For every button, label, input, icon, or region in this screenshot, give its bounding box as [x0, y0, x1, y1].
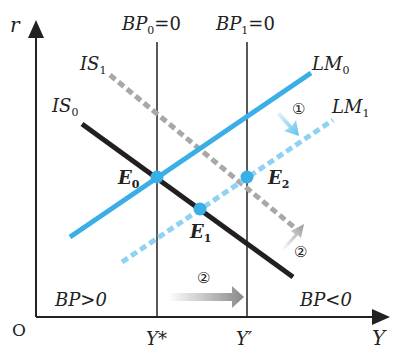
- is1-label: IS1: [79, 53, 106, 77]
- step-1-marker: ①: [292, 100, 305, 118]
- is0-label: IS0: [51, 95, 78, 119]
- origin-label: O: [12, 320, 26, 340]
- x-tick-ystar: Y*: [146, 328, 167, 349]
- x-tick-yprime: Y′: [236, 328, 252, 349]
- y-axis-label: r: [10, 13, 21, 37]
- diagram-canvas: r Y O BP0=0 BP1=0 IS1 IS0 LM1 LM0 E0 E1 …: [0, 0, 402, 356]
- step-2-marker-is: ②: [294, 243, 307, 261]
- bp1-label: BP1=0: [215, 13, 275, 37]
- x-axis-label: Y: [372, 326, 387, 350]
- point-e1: [194, 203, 207, 216]
- is0-curve: [82, 124, 293, 277]
- lm1-label: LM1: [331, 96, 369, 120]
- point-e0: [151, 171, 164, 184]
- region-label-surplus: BP>0: [54, 289, 107, 310]
- point-e2: [241, 171, 254, 184]
- e0-label: E0: [117, 167, 140, 191]
- bp-shift-arrow-icon: [168, 286, 244, 308]
- e1-label: E1: [189, 221, 211, 245]
- lm0-label: LM0: [311, 53, 349, 77]
- region-label-deficit: BP<0: [299, 289, 352, 310]
- e2-label: E2: [267, 167, 289, 191]
- bp0-label: BP0=0: [121, 13, 181, 37]
- islm-bp-diagram: r Y O BP0=0 BP1=0 IS1 IS0 LM1 LM0 E0 E1 …: [0, 0, 402, 356]
- step-2-marker-bp: ②: [197, 269, 210, 287]
- lm1-curve: [122, 120, 333, 262]
